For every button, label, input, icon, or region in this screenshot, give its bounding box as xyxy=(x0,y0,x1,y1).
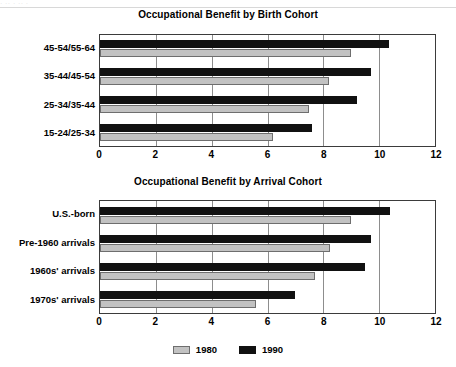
chart-title: Occupational Benefit by Arrival Cohort xyxy=(0,176,456,187)
category-label: 45-54/55-64 xyxy=(0,38,95,58)
bar-1980 xyxy=(100,105,309,113)
scan-top-partial-text: · ·· · ·· · xyxy=(0,0,456,7)
x-axis-ticks: 024681012 xyxy=(99,316,436,332)
category-label: Pre-1960 arrivals xyxy=(0,233,95,253)
plot-area xyxy=(99,200,436,314)
legend-label-1980: 1980 xyxy=(196,344,217,355)
category-axis-labels: 45-54/55-6435-44/45-5425-34/35-4415-24/2… xyxy=(0,34,95,147)
category-label: 15-24/25-34 xyxy=(0,123,95,143)
x-tick-label: 10 xyxy=(374,149,385,160)
bar-1990 xyxy=(100,124,312,132)
category-label: 1970s' arrivals xyxy=(0,290,95,310)
x-tick-label: 4 xyxy=(209,316,215,327)
x-tick-label: 0 xyxy=(96,316,102,327)
category-label: 35-44/45-54 xyxy=(0,66,95,86)
bar-group xyxy=(100,233,435,253)
chart-title: Occupational Benefit by Birth Cohort xyxy=(0,9,456,20)
bar-1980 xyxy=(100,272,315,280)
bar-1990 xyxy=(100,291,295,299)
bar-group xyxy=(100,205,435,225)
category-label: U.S.-born xyxy=(0,204,95,224)
bar-1980 xyxy=(100,300,256,308)
bar-group xyxy=(100,289,435,309)
x-tick-label: 2 xyxy=(152,149,158,160)
bar-1980 xyxy=(100,244,330,252)
category-label: 1960s' arrivals xyxy=(0,261,95,281)
bar-rows xyxy=(100,35,435,146)
x-axis-ticks: 024681012 xyxy=(99,149,436,165)
x-tick-label: 6 xyxy=(265,316,271,327)
chart-legend: 19801990 xyxy=(0,344,456,355)
legend-item-1990: 1990 xyxy=(239,344,283,355)
x-tick-label: 6 xyxy=(265,149,271,160)
x-tick-label: 8 xyxy=(321,149,327,160)
bar-1980 xyxy=(100,77,329,85)
bar-group xyxy=(100,39,435,59)
x-tick-label: 10 xyxy=(374,316,385,327)
legend-label-1990: 1990 xyxy=(262,344,283,355)
category-axis-labels: U.S.-bornPre-1960 arrivals1960s' arrival… xyxy=(0,200,95,314)
bar-1990 xyxy=(100,96,357,104)
legend-swatch-1980 xyxy=(173,346,190,354)
bar-group xyxy=(100,261,435,281)
plot-area xyxy=(99,34,436,147)
legend-swatch-1990 xyxy=(239,346,256,354)
bar-1990 xyxy=(100,263,365,271)
scan-top-rule xyxy=(0,7,456,8)
bar-1980 xyxy=(100,133,273,141)
x-tick-label: 2 xyxy=(152,316,158,327)
chart-birth-cohort: Occupational Benefit by Birth Cohort 45-… xyxy=(0,9,456,169)
x-tick-label: 12 xyxy=(430,149,441,160)
x-tick-label: 4 xyxy=(209,149,215,160)
bar-1990 xyxy=(100,68,371,76)
bar-group xyxy=(100,67,435,87)
bar-1980 xyxy=(100,49,351,57)
bar-1990 xyxy=(100,40,389,48)
bar-rows xyxy=(100,201,435,313)
bar-group xyxy=(100,94,435,114)
x-tick-label: 0 xyxy=(96,149,102,160)
legend-item-1980: 1980 xyxy=(173,344,217,355)
chart-arrival-cohort: Occupational Benefit by Arrival Cohort U… xyxy=(0,176,456,334)
x-tick-label: 8 xyxy=(321,316,327,327)
x-tick-label: 12 xyxy=(430,316,441,327)
bar-1990 xyxy=(100,207,390,215)
bar-group xyxy=(100,122,435,142)
category-label: 25-34/35-44 xyxy=(0,95,95,115)
bar-1980 xyxy=(100,216,351,224)
bar-1990 xyxy=(100,235,371,243)
